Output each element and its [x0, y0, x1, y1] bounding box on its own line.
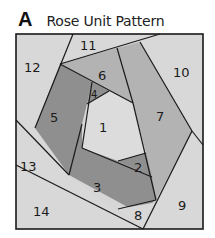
label-3: 3: [93, 180, 101, 195]
label-12: 12: [24, 60, 41, 75]
label-6: 6: [98, 68, 106, 83]
label-14: 14: [33, 204, 50, 219]
label-8: 8: [134, 208, 142, 223]
label-9: 9: [178, 198, 186, 213]
label-7: 7: [156, 109, 164, 124]
rose-unit-pattern-diagram: 1 2 3 4 5 6 7 8 9 10 11 12 13 14: [0, 0, 215, 238]
label-5: 5: [50, 110, 58, 125]
label-13: 13: [20, 159, 37, 174]
label-11: 11: [80, 38, 97, 53]
label-10: 10: [173, 65, 190, 80]
label-2: 2: [134, 160, 142, 175]
label-1: 1: [99, 120, 107, 135]
label-4: 4: [91, 89, 97, 100]
